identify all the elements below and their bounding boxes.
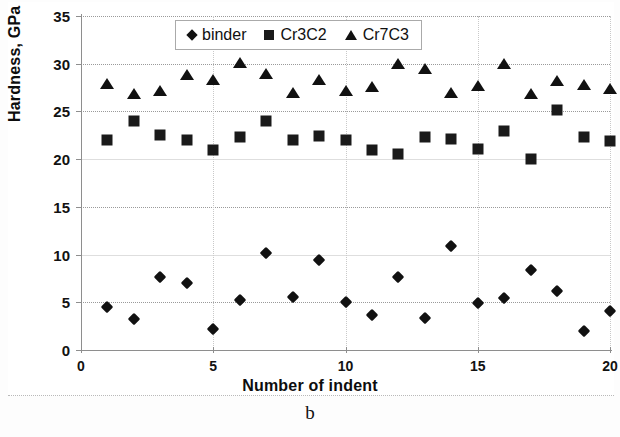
- data-point-Cr7C3-2: [127, 88, 141, 99]
- data-point-Cr7C3-5: [206, 74, 220, 85]
- y-tick-mark-35: [76, 16, 82, 17]
- square-marker-icon: [264, 30, 274, 40]
- y-tick-label-10: 10: [28, 246, 70, 263]
- series-Cr7C3: [81, 16, 610, 350]
- triangle-marker-icon: [345, 30, 357, 40]
- y-axis-title: Hardness, GPa: [6, 6, 24, 122]
- x-tick-mark-20: [610, 347, 611, 353]
- y-tick-mark-25: [76, 111, 82, 112]
- data-point-Cr7C3-6: [233, 57, 247, 68]
- y-tick-label-15: 15: [28, 198, 70, 215]
- y-tick-label-30: 30: [28, 55, 70, 72]
- y-tick-label-25: 25: [28, 103, 70, 120]
- y-tick-label-0: 0: [28, 342, 70, 359]
- data-point-Cr7C3-20: [603, 83, 617, 94]
- plot-canvas: [81, 16, 610, 350]
- chart-legend: binderCr3C2Cr7C3: [175, 20, 422, 50]
- x-tick-label-10: 10: [326, 358, 366, 374]
- data-point-Cr7C3-3: [153, 85, 167, 96]
- x-tick-mark-10: [346, 347, 347, 353]
- y-tick-label-35: 35: [28, 8, 70, 25]
- y-tick-label-5: 5: [28, 294, 70, 311]
- data-point-Cr7C3-17: [524, 88, 538, 99]
- y-tick-label-20: 20: [28, 151, 70, 168]
- data-point-Cr7C3-1: [100, 78, 114, 89]
- legend-entry-Cr7C3: Cr7C3: [345, 26, 409, 44]
- legend-label-Cr7C3: Cr7C3: [363, 26, 409, 44]
- y-tick-mark-5: [76, 302, 82, 303]
- diamond-marker-icon: [186, 29, 197, 40]
- data-point-Cr7C3-7: [259, 68, 273, 79]
- chart-plot-area: Hardness, GPa 05101520253035 05101520 bi…: [8, 2, 614, 396]
- x-tick-label-5: 5: [193, 358, 233, 374]
- x-tick-label-15: 15: [458, 358, 498, 374]
- legend-label-Cr3C2: Cr3C2: [280, 26, 326, 44]
- data-point-Cr7C3-9: [312, 74, 326, 85]
- data-point-Cr7C3-13: [418, 63, 432, 74]
- x-tick-mark-0: [81, 347, 82, 353]
- data-point-Cr7C3-4: [180, 69, 194, 80]
- data-point-Cr7C3-15: [471, 80, 485, 91]
- data-point-Cr7C3-16: [497, 58, 511, 69]
- x-tick-mark-5: [213, 347, 214, 353]
- x-tick-mark-15: [478, 347, 479, 353]
- legend-label-binder: binder: [202, 26, 246, 44]
- y-tick-mark-20: [76, 159, 82, 160]
- data-point-Cr7C3-11: [365, 81, 379, 92]
- data-point-Cr7C3-10: [339, 85, 353, 96]
- legend-entry-Cr3C2: Cr3C2: [264, 26, 326, 44]
- y-tick-mark-15: [76, 207, 82, 208]
- y-tick-mark-10: [76, 255, 82, 256]
- x-tick-label-20: 20: [590, 358, 620, 374]
- y-tick-mark-30: [76, 64, 82, 65]
- x-tick-label-0: 0: [61, 358, 101, 374]
- legend-entry-binder: binder: [188, 26, 246, 44]
- figure-panel: Hardness, GPa 05101520253035 05101520 bi…: [0, 0, 620, 437]
- data-point-Cr7C3-8: [286, 87, 300, 98]
- gridline-x-20: [610, 16, 611, 350]
- data-point-Cr7C3-19: [577, 79, 591, 90]
- data-point-Cr7C3-12: [391, 58, 405, 69]
- x-axis-title: Number of indent: [0, 377, 620, 395]
- data-point-Cr7C3-14: [444, 87, 458, 98]
- data-point-Cr7C3-18: [550, 75, 564, 86]
- figure-caption: b: [0, 402, 620, 424]
